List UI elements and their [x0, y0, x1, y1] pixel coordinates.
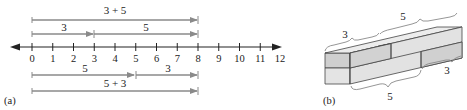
- top-sum-arrow: 3 + 5: [32, 4, 198, 24]
- tick-label: 3: [92, 53, 97, 64]
- tick-label: 0: [29, 53, 34, 64]
- tick-label: 5: [133, 53, 138, 64]
- tick-label: 8: [195, 53, 200, 64]
- right-arrow-icon: [272, 44, 282, 51]
- bottom-left-brace-label: 5: [387, 90, 393, 102]
- panel-a: 3 + 5 3 5: [4, 4, 285, 107]
- block-front-lower: [325, 68, 350, 84]
- panel-b: 3 5 5 3 (b): [323, 10, 462, 107]
- bottom-segment-3-label: 3: [165, 62, 171, 74]
- bottom-segment-5-label: 5: [82, 62, 88, 74]
- panel-a-label: (a): [4, 95, 16, 107]
- tick-label: 4: [112, 53, 118, 64]
- tick-label: 10: [234, 53, 245, 64]
- tick-label: 1: [50, 53, 55, 64]
- left-arrow-icon: [10, 44, 20, 51]
- top-right-brace-label: 5: [400, 10, 406, 22]
- top-sum-label: 3 + 5: [104, 4, 127, 16]
- tick-label: 11: [255, 53, 265, 64]
- bottom-right-brace-label: 3: [444, 64, 450, 76]
- tick-label: 12: [275, 53, 286, 64]
- tick-label: 2: [71, 53, 76, 64]
- top-segment-3-label: 3: [61, 21, 67, 33]
- top-segments: 3 5: [32, 21, 198, 38]
- tick-label: 7: [175, 53, 180, 64]
- top-segment-5-label: 5: [143, 21, 149, 33]
- tick-label: 6: [154, 53, 159, 64]
- commutative-addition-figure: 3 + 5 3 5: [0, 0, 467, 110]
- bottom-sum-arrow: 5 + 3: [32, 77, 198, 95]
- block-front-upper: [325, 53, 350, 68]
- top-left-brace-label: 3: [342, 28, 348, 40]
- number-line: 0 1 2 3 4 5 6 7 8 9 10 11 12: [10, 43, 285, 64]
- tick-label: 9: [216, 53, 221, 64]
- bottom-sum-label: 5 + 3: [104, 77, 127, 89]
- panel-b-label: (b): [323, 95, 336, 107]
